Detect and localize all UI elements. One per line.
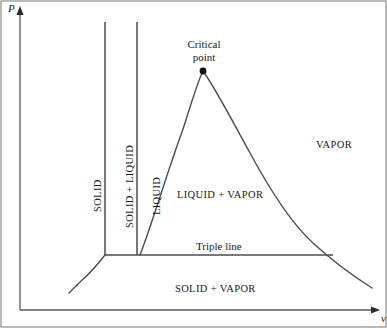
critical-point-marker [200, 68, 207, 75]
phase-diagram: P v Critical point Triple line SOLID SOL… [0, 0, 387, 328]
triple-line-label: Triple line [196, 240, 242, 252]
critical-point-label-line1: Critical [176, 38, 232, 50]
region-label-liquid-vapor: LIQUID + VAPOR [177, 189, 263, 201]
x-axis-label: v [381, 312, 386, 324]
region-label-solid-vapor: SOLID + VAPOR [175, 283, 256, 295]
y-axis-label: P [8, 2, 15, 14]
critical-point-label-line2: point [176, 51, 232, 63]
region-label-solid-liquid: SOLID + LIQUID [124, 145, 136, 228]
region-label-liquid: LIQUID [151, 177, 163, 215]
region-label-solid: SOLID [92, 179, 104, 212]
region-label-vapor: VAPOR [316, 139, 352, 151]
